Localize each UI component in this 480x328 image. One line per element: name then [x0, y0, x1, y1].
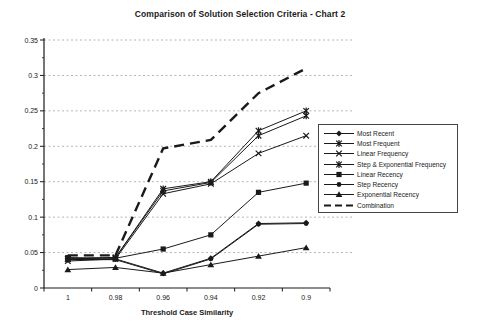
x-tick-label: 0.94	[204, 294, 218, 301]
data-point-marker	[303, 133, 309, 139]
legend-item: Step Recency	[323, 179, 457, 189]
y-tick-label: 0.1	[28, 214, 38, 221]
legend-item: Exponential Recency	[323, 190, 457, 200]
legend-item: Most Frequent	[323, 138, 457, 148]
legend-label: Most Frequent	[357, 140, 400, 147]
legend-marker-sample-square	[323, 170, 355, 179]
series-line-linear-recency	[68, 183, 306, 258]
legend-marker-sample-triangle	[323, 190, 355, 199]
data-point-marker	[256, 132, 262, 139]
y-tick-label: 0.15	[24, 178, 38, 185]
data-point-marker	[256, 190, 261, 195]
legend-marker-sample-star	[323, 139, 355, 148]
series-line-combination	[68, 68, 306, 255]
legend-marker-sample-x	[323, 149, 355, 158]
legend-item: Most Recent	[323, 128, 457, 138]
legend-marker-sample-circle	[323, 180, 355, 189]
series-line-step-recency	[68, 224, 306, 274]
legend-label: Combination	[357, 202, 394, 209]
y-tick-label: 0.05	[24, 249, 38, 256]
data-point-marker	[337, 182, 342, 187]
data-point-marker	[113, 257, 118, 262]
data-point-marker	[336, 130, 342, 136]
data-point-marker	[303, 112, 309, 119]
legend-label: Step & Exponential Frequency	[357, 161, 446, 168]
data-point-marker	[256, 151, 262, 157]
series-line-most-frequent	[68, 111, 306, 259]
x-tick-label: 1	[66, 294, 70, 301]
legend-marker-sample-star	[323, 160, 355, 169]
legend-item: Linear Frequency	[323, 149, 457, 159]
legend-marker-sample-diamond	[323, 129, 355, 138]
series-line-exponential-recency	[68, 248, 306, 274]
y-tick-label: 0	[34, 285, 38, 292]
legend-item: Combination	[323, 200, 457, 210]
data-point-marker	[208, 232, 213, 237]
y-tick-label: 0.3	[28, 72, 38, 79]
series-line-most-recent	[68, 223, 306, 273]
y-tick-label: 0.35	[24, 37, 38, 44]
legend-label: Exponential Recency	[357, 191, 419, 198]
series-line-step-exponential-frequency	[68, 116, 306, 259]
x-axis-title: Threshold Case Similarity	[44, 308, 330, 317]
y-tick-label: 0.25	[24, 107, 38, 114]
x-tick-label: 0.92	[252, 294, 266, 301]
x-tick-label: 0.98	[109, 294, 123, 301]
x-tick-label: 0.96	[156, 294, 170, 301]
data-point-marker	[65, 257, 70, 262]
data-point-marker	[208, 257, 213, 262]
y-tick-label: 0.2	[28, 143, 38, 150]
data-point-marker	[161, 246, 166, 251]
legend-label: Step Recency	[357, 181, 398, 188]
data-point-marker	[304, 221, 309, 226]
data-point-marker	[304, 181, 309, 186]
legend-item: Step & Exponential Frequency	[323, 159, 457, 169]
legend-item: Linear Recency	[323, 169, 457, 179]
legend-marker-sample-none	[323, 201, 355, 210]
legend-label: Linear Recency	[357, 171, 403, 178]
legend-label: Linear Frequency	[357, 150, 408, 157]
data-point-marker	[336, 172, 341, 177]
x-tick-label: 0.9	[301, 294, 311, 301]
data-point-marker	[303, 244, 310, 250]
legend-label: Most Recent	[357, 130, 394, 137]
chart-legend: Most RecentMost FrequentLinear Frequency…	[318, 124, 458, 213]
data-point-marker	[256, 222, 261, 227]
